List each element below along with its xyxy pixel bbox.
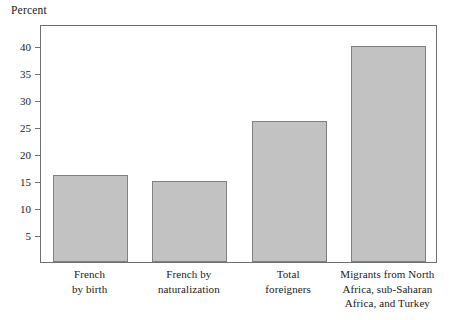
y-tick-mark (35, 74, 41, 75)
y-tick-label: 10 (20, 202, 31, 217)
bar (252, 121, 327, 262)
y-tick-label: 5 (26, 229, 32, 244)
y-axis-title: Percent (11, 3, 47, 17)
plot-inner: 510152025303540 (41, 26, 436, 262)
y-tick-label: 15 (20, 175, 31, 190)
bar (53, 175, 128, 262)
y-tick-label: 30 (20, 94, 31, 109)
y-tick-label: 40 (20, 40, 31, 55)
x-axis-category-label: French by birth (40, 267, 139, 296)
y-tick-label: 20 (20, 148, 31, 163)
y-tick-label: 25 (20, 121, 31, 136)
y-tick-mark (35, 101, 41, 102)
y-tick-label: 35 (20, 67, 31, 82)
x-axis-category-label: French by naturalization (139, 267, 238, 296)
y-tick-mark (35, 182, 41, 183)
plot-area: 510152025303540 (40, 25, 437, 263)
y-tick-mark (35, 128, 41, 129)
x-axis-category-label: Total foreigners (239, 267, 338, 296)
y-tick-mark (35, 209, 41, 210)
bar-chart: Percent 510152025303540 French by birthF… (0, 0, 457, 320)
y-tick-mark (35, 47, 41, 48)
bar (351, 46, 426, 262)
x-axis-category-label: Migrants from North Africa, sub-Saharan … (338, 267, 437, 311)
y-tick-mark (35, 236, 41, 237)
bar (152, 181, 227, 262)
y-tick-mark (35, 155, 41, 156)
